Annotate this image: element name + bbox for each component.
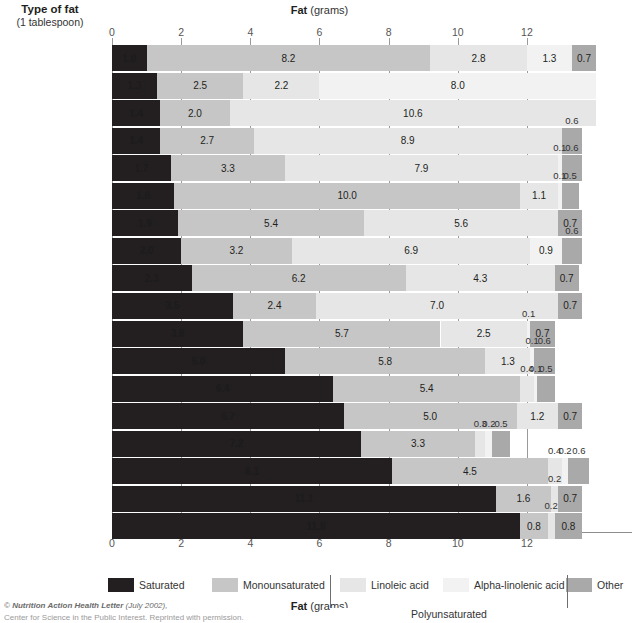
bar-segment-mono: 8.2 bbox=[147, 45, 431, 71]
bar-segment-mono: 0.8 bbox=[520, 513, 548, 539]
x-tick-top-12: 12 bbox=[521, 26, 533, 38]
axis-title-top: Fat (grams) bbox=[112, 4, 527, 16]
segment-value: 4.5 bbox=[463, 466, 477, 477]
segment-value-callout: 0.2 bbox=[545, 500, 558, 511]
segment-value: 7.2 bbox=[230, 438, 244, 449]
segment-value-callout: 0.5 bbox=[564, 170, 577, 181]
x-tick-top-2: 2 bbox=[178, 26, 184, 38]
bar-segment-oth: 0.7 bbox=[555, 265, 579, 291]
bar-segment-mono: 10.0 bbox=[174, 183, 520, 209]
bar-segment-sat: 1.3 bbox=[112, 73, 157, 99]
bar-segment-oth bbox=[562, 238, 583, 264]
bar-segment-mono: 2.0 bbox=[160, 100, 229, 126]
legend-label-mono: Monounsaturated bbox=[243, 579, 325, 591]
footer-line-1: © Nutrition Action Health Letter (July 2… bbox=[4, 600, 244, 612]
bar-segment-ala bbox=[562, 458, 569, 484]
segment-value: 1.7 bbox=[134, 163, 148, 174]
bar-segment-oth: 0.7 bbox=[558, 293, 582, 319]
bar-segment-lin: 6.9 bbox=[292, 238, 531, 264]
segment-value: 0.8 bbox=[527, 521, 541, 532]
segment-value: 1.2 bbox=[530, 411, 544, 422]
x-tick-top-6: 6 bbox=[317, 26, 323, 38]
segment-value: 6.7 bbox=[221, 411, 235, 422]
plot-area: 002244668810101212Canola oil1.08.22.81.3… bbox=[112, 38, 632, 538]
segment-value: 5.0 bbox=[423, 411, 437, 422]
bar-segment-oth bbox=[568, 458, 589, 484]
bar-segment-oth bbox=[492, 431, 509, 457]
bar-segment-ala: 0.9 bbox=[530, 238, 561, 264]
bar-segment-lin: 10.6 bbox=[230, 100, 597, 126]
bar-row: Sesame oil1.95.45.60.7 bbox=[112, 210, 632, 236]
segment-value: 0.7 bbox=[563, 493, 577, 504]
segment-value: 0.7 bbox=[560, 273, 574, 284]
axis-title-top-bold: Fat bbox=[291, 4, 308, 16]
bar-row: Flaxseed oil1.32.52.28.0 bbox=[112, 73, 632, 99]
segment-value: 8.2 bbox=[281, 53, 295, 64]
segment-value: 1.3 bbox=[501, 356, 515, 367]
segment-value: 0.7 bbox=[563, 411, 577, 422]
segment-value: 10.0 bbox=[337, 190, 356, 201]
bar-segment-mono: 2.4 bbox=[233, 293, 316, 319]
bar-row: Olive oil1.810.01.10.10.5 bbox=[112, 183, 632, 209]
polyunsaturated-label: Polyunsaturated bbox=[330, 608, 568, 620]
legend-label-oth: Other bbox=[597, 579, 623, 591]
segment-value: 2.2 bbox=[274, 80, 288, 91]
segment-value: 0.7 bbox=[563, 300, 577, 311]
bar-segment-lin bbox=[475, 431, 485, 457]
segment-value: 8.0 bbox=[451, 80, 465, 91]
bar-segment-mono: 3.3 bbox=[361, 431, 475, 457]
row-header: Type of fat (1 tablespoon) bbox=[0, 2, 100, 30]
bar-segment-sat: 5.0 bbox=[112, 348, 285, 374]
segment-value: 8.1 bbox=[245, 466, 259, 477]
segment-value: 2.5 bbox=[477, 328, 491, 339]
segment-value: 3.5 bbox=[166, 300, 180, 311]
segment-value: 2.7 bbox=[200, 135, 214, 146]
axis-title-top-units: (grams) bbox=[307, 4, 348, 16]
segment-value: 2.0 bbox=[188, 108, 202, 119]
bar-segment-mono: 5.8 bbox=[285, 348, 486, 374]
bar-segment-lin: 1.1 bbox=[520, 183, 558, 209]
bar-segment-mono: 5.7 bbox=[243, 321, 440, 347]
bar-segment-sat: 7.2 bbox=[112, 431, 361, 457]
segment-value: 6.4 bbox=[216, 383, 230, 394]
segment-value: 3.8 bbox=[171, 328, 185, 339]
row-header-subtitle: (1 tablespoon) bbox=[0, 16, 100, 29]
x-tick-top-0: 0 bbox=[109, 26, 115, 38]
bar-segment-mono: 3.3 bbox=[171, 155, 285, 181]
segment-value: 2.4 bbox=[268, 300, 282, 311]
bar-segment-sat: 2.0 bbox=[112, 238, 181, 264]
x-tick-top-8: 8 bbox=[386, 26, 392, 38]
row-header-title: Type of fat bbox=[0, 2, 100, 16]
bar-row: Cottonseed oil3.52.47.00.7 bbox=[112, 293, 632, 319]
bar-segment-sat: 1.7 bbox=[112, 155, 171, 181]
bar-row: Chicken fat3.85.72.50.10.7 bbox=[112, 321, 632, 347]
segment-value: 5.4 bbox=[420, 383, 434, 394]
bar-segment-mono: 5.4 bbox=[178, 210, 365, 236]
segment-value: 1.1 bbox=[532, 190, 546, 201]
bar-segment-oth: 0.7 bbox=[558, 403, 582, 429]
segment-value: 1.3 bbox=[128, 80, 142, 91]
bar-segment-sat: 3.8 bbox=[112, 321, 243, 347]
segment-value-callout: 0.6 bbox=[565, 142, 578, 153]
segment-value: 6.9 bbox=[404, 245, 418, 256]
segment-value: 0.8 bbox=[561, 521, 575, 532]
bar-segment-oth: 0.8 bbox=[555, 513, 583, 539]
segment-value: 6.2 bbox=[292, 273, 306, 284]
bar-segment-mono: 4.5 bbox=[392, 458, 548, 484]
x-tick-top-10: 10 bbox=[452, 26, 464, 38]
bar-segment-mono: 1.6 bbox=[496, 486, 551, 512]
segment-value: 1.4 bbox=[129, 135, 143, 146]
bar-row: Soybean oil2.03.26.90.90.6 bbox=[112, 238, 632, 264]
segment-value: 7.0 bbox=[430, 300, 444, 311]
segment-value-callout: 0.2 bbox=[548, 473, 561, 484]
segment-value: 5.6 bbox=[454, 218, 468, 229]
segment-value: 8.9 bbox=[401, 135, 415, 146]
segment-value: 2.0 bbox=[140, 245, 154, 256]
bar-segment-oth bbox=[562, 183, 579, 209]
segment-value: 1.9 bbox=[138, 218, 152, 229]
segment-value: 1.8 bbox=[136, 190, 150, 201]
footer-credit: © Nutrition Action Health Letter (July 2… bbox=[4, 600, 244, 623]
bar-segment-ala: 8.0 bbox=[319, 73, 596, 99]
bar-segment-lin: 2.5 bbox=[441, 321, 527, 347]
bar-segment-sat: 1.8 bbox=[112, 183, 174, 209]
